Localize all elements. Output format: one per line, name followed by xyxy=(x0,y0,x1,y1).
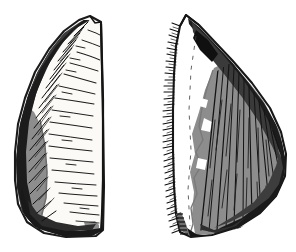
lithic-illustration-canvas: Black and white archaeological drawing o… xyxy=(0,0,296,252)
right-gray-notch-b xyxy=(196,158,207,170)
lithic-illustration-figure: Black and white archaeological drawing o… xyxy=(0,0,296,252)
